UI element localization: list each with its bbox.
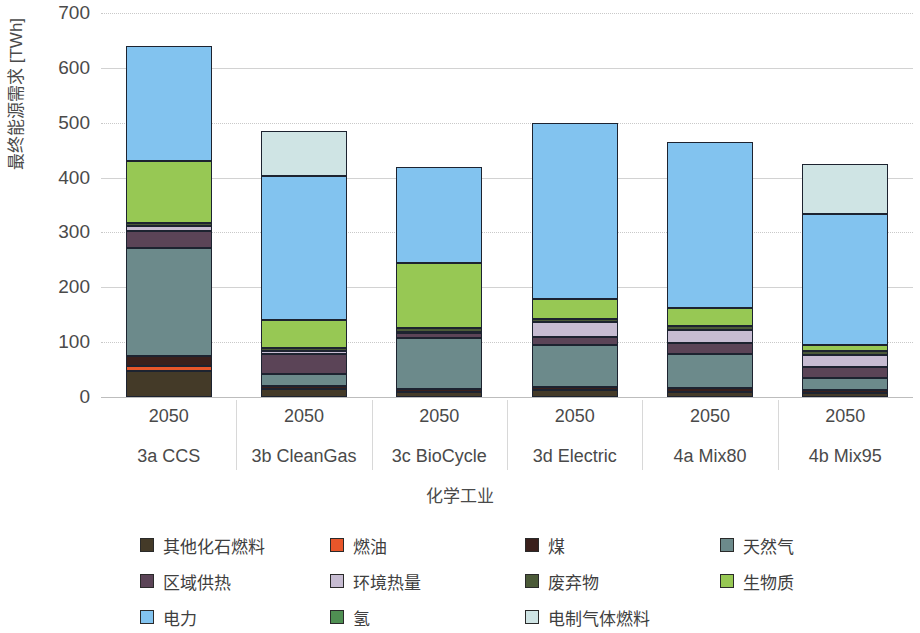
- bar-segment-coal[interactable]: [802, 390, 888, 393]
- y-tick-label: 400: [32, 167, 90, 189]
- bar-segment-natural_gas[interactable]: [667, 354, 753, 388]
- bar-segment-other_fossil[interactable]: [802, 393, 888, 397]
- bar-segment-district_heat[interactable]: [396, 333, 482, 338]
- y-axis-title: 最终能源需求 [TWh]: [2, 0, 27, 170]
- legend-label: 其他化石燃料: [163, 533, 265, 558]
- stacked-bar[interactable]: [802, 164, 888, 397]
- bar-segment-district_heat[interactable]: [261, 354, 347, 374]
- bar-segment-coal[interactable]: [396, 389, 482, 392]
- bar-segment-coal[interactable]: [126, 356, 212, 366]
- bar-segment-coal[interactable]: [261, 386, 347, 389]
- legend-item-natural_gas[interactable]: 天然气: [720, 532, 794, 558]
- bar-segment-natural_gas[interactable]: [261, 374, 347, 386]
- legend-item-coal[interactable]: 煤: [525, 532, 565, 558]
- bar-segment-biomass[interactable]: [396, 263, 482, 328]
- bar-segment-waste[interactable]: [261, 348, 347, 351]
- bar-segment-ambient_heat[interactable]: [126, 226, 212, 231]
- x-axis-category: 20504a Mix80: [642, 398, 777, 478]
- bar-segment-waste[interactable]: [532, 319, 618, 322]
- x-axis-category: 20504b Mix95: [778, 398, 913, 478]
- bar-segment-electricity[interactable]: [532, 123, 618, 299]
- bar-segment-ambient_heat[interactable]: [802, 355, 888, 368]
- bar-segment-other_fossil[interactable]: [667, 392, 753, 397]
- bar-group[interactable]: [101, 13, 236, 397]
- bar-segment-other_fossil[interactable]: [396, 392, 482, 397]
- legend-item-biomass[interactable]: 生物质: [720, 568, 794, 594]
- chart-legend: 其他化石燃料燃油煤天然气区域供热环境热量废弃物生物质电力氢电制气体燃料: [140, 532, 900, 632]
- legend-label: 煤: [548, 533, 565, 558]
- y-tick-label: 600: [32, 57, 90, 79]
- legend-item-hydrogen[interactable]: 氢: [330, 604, 370, 630]
- stacked-bar[interactable]: [532, 123, 618, 397]
- x-axis-title: 化学工业: [0, 482, 920, 507]
- bar-segment-district_heat[interactable]: [667, 343, 753, 354]
- bar-segment-district_heat[interactable]: [532, 337, 618, 346]
- legend-swatch-icon: [330, 610, 344, 624]
- legend-swatch-icon: [525, 574, 539, 588]
- stacked-bar[interactable]: [396, 167, 482, 397]
- legend-item-waste[interactable]: 废弃物: [525, 568, 599, 594]
- x-axis-year-label: 2050: [507, 406, 642, 427]
- bar-group[interactable]: [372, 13, 507, 397]
- legend-swatch-icon: [330, 538, 344, 552]
- legend-item-electricity[interactable]: 电力: [140, 604, 197, 630]
- bar-segment-fuel_oil[interactable]: [126, 366, 212, 371]
- stacked-bar[interactable]: [126, 46, 212, 397]
- bar-segment-electricity[interactable]: [667, 142, 753, 308]
- bar-segment-e_gas[interactable]: [802, 164, 888, 214]
- bar-segment-natural_gas[interactable]: [802, 378, 888, 390]
- bar-segment-natural_gas[interactable]: [532, 345, 618, 386]
- bar-group[interactable]: [642, 13, 777, 397]
- bar-segment-electricity[interactable]: [802, 214, 888, 345]
- bar-segment-waste[interactable]: [126, 223, 212, 227]
- bar-segment-biomass[interactable]: [126, 161, 212, 223]
- bar-segment-district_heat[interactable]: [126, 231, 212, 248]
- bar-segment-biomass[interactable]: [667, 308, 753, 326]
- bar-segment-biomass[interactable]: [532, 299, 618, 319]
- bar-segment-other_fossil[interactable]: [126, 371, 212, 397]
- legend-label: 氢: [353, 605, 370, 630]
- legend-label: 电制气体燃料: [548, 605, 650, 630]
- legend-swatch-icon: [720, 538, 734, 552]
- bar-segment-other_fossil[interactable]: [261, 389, 347, 397]
- y-tick-label: 500: [32, 112, 90, 134]
- bar-segment-ambient_heat[interactable]: [532, 322, 618, 336]
- legend-item-ambient_heat[interactable]: 环境热量: [330, 568, 421, 594]
- bar-segment-natural_gas[interactable]: [126, 248, 212, 356]
- legend-swatch-icon: [525, 538, 539, 552]
- bar-segment-coal[interactable]: [532, 387, 618, 391]
- legend-swatch-icon: [330, 574, 344, 588]
- x-axis-category: 20503b CleanGas: [236, 398, 371, 478]
- bar-segment-electricity[interactable]: [261, 176, 347, 320]
- x-axis-scenario-label: 4a Mix80: [642, 446, 777, 467]
- bar-segment-coal[interactable]: [667, 388, 753, 391]
- bar-segment-district_heat[interactable]: [802, 367, 888, 377]
- bar-segment-natural_gas[interactable]: [396, 338, 482, 388]
- bar-segment-ambient_heat[interactable]: [261, 351, 347, 354]
- legend-swatch-icon: [140, 538, 154, 552]
- bar-segment-biomass[interactable]: [261, 320, 347, 347]
- bar-segment-other_fossil[interactable]: [532, 390, 618, 397]
- legend-item-fuel_oil[interactable]: 燃油: [330, 532, 387, 558]
- bar-segment-electricity[interactable]: [396, 167, 482, 263]
- bar-group[interactable]: [778, 13, 913, 397]
- bar-segment-waste[interactable]: [802, 351, 888, 354]
- y-axis-tick-labels: 7006005004003002001000: [32, 0, 90, 420]
- legend-swatch-icon: [720, 574, 734, 588]
- stacked-bar[interactable]: [261, 131, 347, 397]
- bar-group[interactable]: [507, 13, 642, 397]
- bar-segment-ambient_heat[interactable]: [667, 330, 753, 344]
- bar-group[interactable]: [236, 13, 371, 397]
- bar-segment-biomass[interactable]: [802, 345, 888, 352]
- legend-item-district_heat[interactable]: 区域供热: [140, 568, 231, 594]
- bar-segment-electricity[interactable]: [126, 46, 212, 161]
- bar-segment-e_gas[interactable]: [261, 131, 347, 177]
- stacked-bar[interactable]: [667, 142, 753, 397]
- legend-label: 燃油: [353, 533, 387, 558]
- legend-item-e_gas[interactable]: 电制气体燃料: [525, 604, 650, 630]
- x-axis-categories: 20503a CCS20503b CleanGas20503c BioCycle…: [101, 398, 913, 478]
- legend-item-other_fossil[interactable]: 其他化石燃料: [140, 532, 265, 558]
- bar-segment-waste[interactable]: [667, 326, 753, 329]
- bar-segment-waste[interactable]: [396, 328, 482, 332]
- x-axis-scenario-label: 3d Electric: [507, 446, 642, 467]
